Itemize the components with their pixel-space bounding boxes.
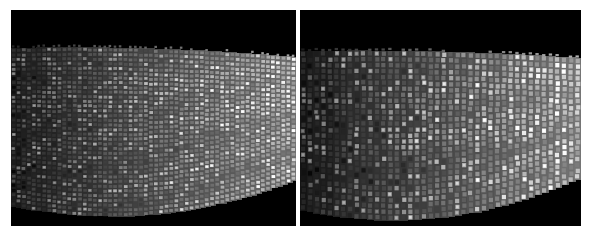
figure-root <box>0 0 593 243</box>
left-image-panel <box>11 10 296 226</box>
right-image-panel <box>300 10 581 226</box>
left-panel-canvas <box>11 10 296 226</box>
right-panel-canvas <box>300 10 581 226</box>
